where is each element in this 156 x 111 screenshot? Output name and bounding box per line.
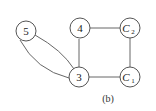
node-4: 4 bbox=[70, 18, 90, 38]
node-c1: C 1 bbox=[120, 67, 140, 87]
edge-5-3-upper bbox=[35, 35, 74, 69]
figure-caption: (b) bbox=[102, 93, 114, 105]
node-c1-subscript: 1 bbox=[131, 77, 135, 85]
node-3-label: 3 bbox=[76, 71, 82, 83]
node-3: 3 bbox=[69, 67, 89, 87]
node-c2-label: C bbox=[122, 22, 130, 34]
graph-diagram: 5 4 C 2 3 C 1 (b) bbox=[0, 0, 156, 111]
node-5-label: 5 bbox=[23, 25, 29, 37]
node-4-label: 4 bbox=[77, 22, 83, 34]
node-c2: C 2 bbox=[120, 18, 140, 38]
node-c2-subscript: 2 bbox=[131, 28, 135, 36]
node-5: 5 bbox=[16, 21, 36, 41]
node-c1-label: C bbox=[122, 71, 130, 83]
edge-5-3-lower bbox=[20, 40, 69, 78]
